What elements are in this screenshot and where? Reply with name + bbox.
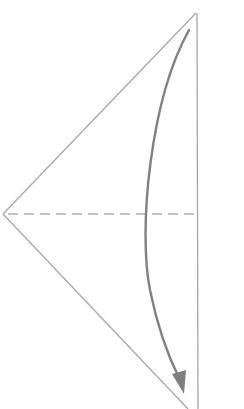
background bbox=[0, 0, 244, 409]
origami-diagram bbox=[0, 0, 244, 409]
